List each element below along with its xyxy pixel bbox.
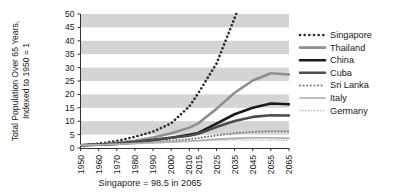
legend-label-thailand: Thailand <box>330 43 365 53</box>
y-tick-label: 20 <box>65 89 75 99</box>
legend-label-china: China <box>330 55 355 65</box>
legend-label-sri-lanka: Sri Lanka <box>330 80 370 90</box>
y-tick-label: 35 <box>65 49 75 59</box>
legend-label-singapore: Singapore <box>330 30 372 40</box>
x-tick-label: 1950 <box>76 155 86 174</box>
x-tick-label: 2000 <box>166 155 176 174</box>
chart-figure: 05101520253035404550 1950196019701980199… <box>0 0 393 196</box>
y-tick-label: 40 <box>65 36 75 46</box>
x-tick-label: 2025 <box>212 155 222 174</box>
chart-svg: 05101520253035404550 1950196019701980199… <box>0 0 393 196</box>
y-tick-label: 15 <box>65 103 75 113</box>
x-tick-label: 1970 <box>112 155 122 174</box>
y-tick-label: 30 <box>65 63 75 73</box>
y-tick-label: 0 <box>70 143 75 153</box>
x-tick-label: 2015 <box>194 155 204 174</box>
x-tick-label: 1980 <box>130 155 140 174</box>
y-axis-title-line2: Indexed to 1950 = 1 <box>21 43 31 119</box>
legend-label-cuba: Cuba <box>330 68 353 78</box>
legend-label-italy: Italy <box>330 93 347 103</box>
y-tick-label: 50 <box>65 9 75 19</box>
x-tick-label: 1960 <box>94 155 104 174</box>
x-tick-label: 2055 <box>266 155 276 174</box>
y-tick-label: 25 <box>65 76 75 86</box>
y-tick-label: 45 <box>65 22 75 32</box>
plot-band <box>81 41 289 54</box>
plot-band <box>81 14 289 27</box>
y-tick-label: 10 <box>65 116 75 126</box>
legend-label-germany: Germany <box>330 106 368 116</box>
x-tick-label: 2045 <box>248 155 258 174</box>
x-tick-label: 2035 <box>230 155 240 174</box>
x-tick-label: 1990 <box>148 155 158 174</box>
annotation-footnote: Singapore = 98.5 in 2065 <box>99 178 202 188</box>
x-tick-label: 2065 <box>284 155 294 174</box>
y-axis-title-line1: Total Population Over 65 Years, <box>10 21 20 141</box>
y-tick-label: 5 <box>70 130 75 140</box>
